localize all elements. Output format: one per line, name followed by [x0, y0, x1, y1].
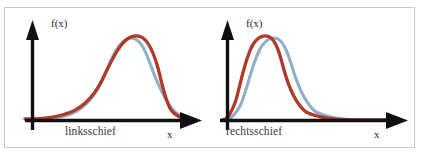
y-axis-label-rechtsschief: f(x): [246, 17, 263, 29]
clipped-caption-strip: Abb. 4: Schiefe eingipfliger Verteilunge…: [0, 0, 421, 7]
y-axis-arrowhead: [221, 20, 234, 40]
x-axis-arrowhead: [386, 112, 408, 129]
curve-red-rechtsschief: [222, 36, 386, 120]
x-axis-label-linksschief: x: [167, 128, 173, 140]
panel-caption-linksschief: linksschief: [65, 125, 116, 137]
x-axis-arrowhead: [180, 112, 202, 129]
y-axis-arrowhead: [26, 20, 39, 40]
y-axis-label-linksschief: f(x): [51, 17, 68, 29]
x-axis-label-rechtsschief: x: [374, 128, 380, 140]
figure-frame: f(x) x linksschief f(x): [4, 7, 415, 148]
panel-caption-rechtsschief: rechtsschief: [226, 125, 282, 137]
chart-panel-rechtsschief: f(x) x rechtsschief: [208, 8, 411, 147]
chart-panel-linksschief: f(x) x linksschief: [7, 8, 210, 147]
curve-red-linksschief: [25, 36, 191, 120]
